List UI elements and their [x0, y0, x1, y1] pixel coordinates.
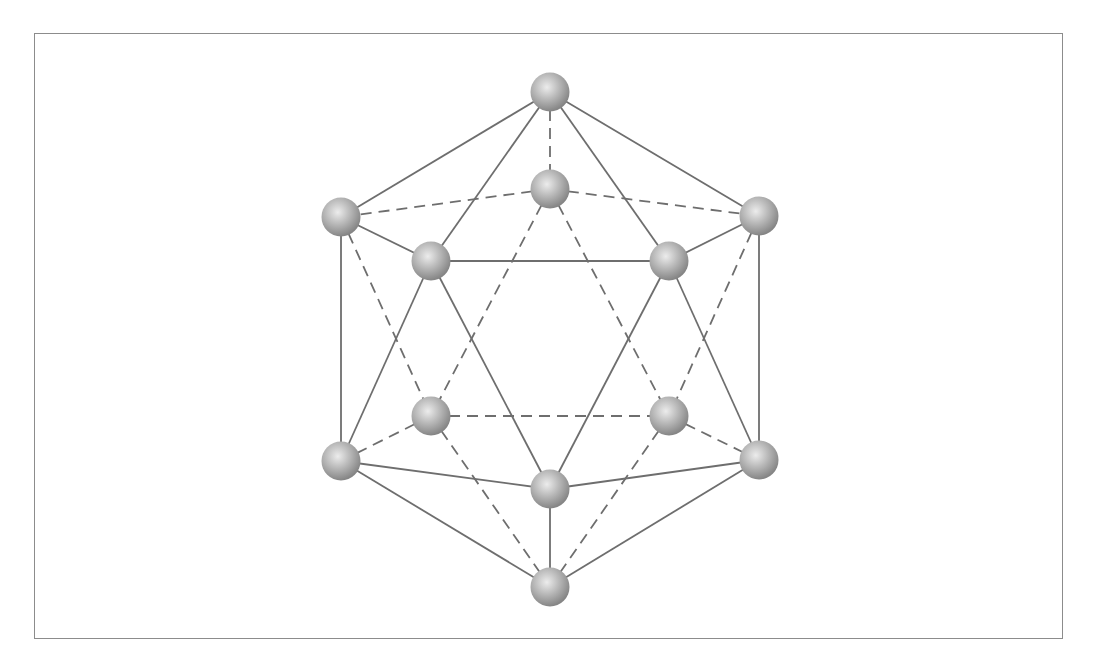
atom-front-bottom [531, 470, 570, 509]
atom-front-upper-left [412, 242, 451, 281]
visible-edge-front-upper-left-to-front-bottom [431, 261, 550, 489]
visible-edge-top-to-upper-left [341, 92, 550, 217]
icosahedron-diagram [0, 0, 1094, 671]
atom-lower-right [740, 441, 779, 480]
atom-front-upper-right [650, 242, 689, 281]
hidden-edge-back-lower-right-to-bottom [550, 416, 669, 587]
hidden-edge-back-top-to-upper-right [550, 189, 759, 216]
atom-back-lower-left [412, 397, 451, 436]
hidden-edge-back-top-to-upper-left [341, 189, 550, 217]
hidden-edge-back-top-to-back-lower-right [550, 189, 669, 416]
atom-back-top [531, 170, 570, 209]
visible-edge-lower-right-to-bottom [550, 460, 759, 587]
visible-edge-front-upper-right-to-front-bottom [550, 261, 669, 489]
hidden-edge-upper-left-to-back-lower-left [341, 217, 431, 416]
edges-layer [341, 92, 759, 587]
visible-edge-top-to-front-upper-left [431, 92, 550, 261]
visible-edge-top-to-upper-right [550, 92, 759, 216]
atom-back-lower-right [650, 397, 689, 436]
atom-top [531, 73, 570, 112]
visible-edge-front-bottom-to-lower-right [550, 460, 759, 489]
atom-bottom [531, 568, 570, 607]
visible-edge-lower-left-to-bottom [341, 461, 550, 587]
hidden-edge-back-top-to-back-lower-left [431, 189, 550, 416]
atom-upper-left [322, 198, 361, 237]
visible-edge-front-upper-right-to-lower-right [669, 261, 759, 460]
hidden-edge-back-lower-left-to-bottom [431, 416, 550, 587]
atom-upper-right [740, 197, 779, 236]
visible-edge-front-upper-left-to-lower-left [341, 261, 431, 461]
visible-edge-lower-left-to-front-bottom [341, 461, 550, 489]
atom-lower-left [322, 442, 361, 481]
hidden-edge-upper-right-to-back-lower-right [669, 216, 759, 416]
visible-edge-top-to-front-upper-right [550, 92, 669, 261]
